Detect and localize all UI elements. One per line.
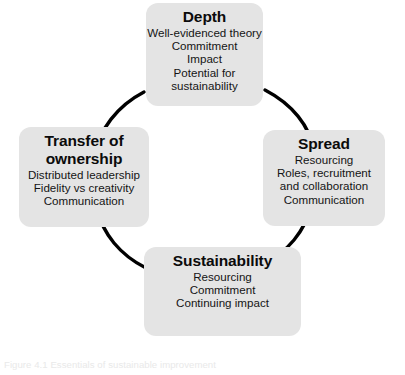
node-depth-title: Depth xyxy=(183,8,226,25)
node-transfer-line-3: Communication xyxy=(28,194,140,207)
node-spread-line-3: and collaboration xyxy=(277,179,371,192)
node-depth-line-2: Commitment xyxy=(147,39,262,52)
node-sustainability: Sustainability Resourcing Commitment Con… xyxy=(144,247,301,336)
node-sustainability-lines: Resourcing Commitment Continuing impact xyxy=(176,270,269,310)
node-depth-line-5: sustainability xyxy=(147,79,262,92)
node-sustainability-title: Sustainability xyxy=(173,252,272,269)
node-depth-line-1: Well-evidenced theory xyxy=(147,26,262,39)
cycle-diagram: Depth Well-evidenced theory Commitment I… xyxy=(0,0,405,375)
node-spread-line-2: Roles, recruitment xyxy=(277,166,371,179)
node-spread-title: Spread xyxy=(298,135,350,152)
node-depth-lines: Well-evidenced theory Commitment Impact … xyxy=(147,26,262,92)
node-sustainability-line-2: Commitment xyxy=(176,283,269,296)
node-transfer-title-line-1: Transfer of xyxy=(44,132,123,150)
node-transfer-lines: Distributed leadership Fidelity vs creat… xyxy=(28,168,140,208)
node-depth: Depth Well-evidenced theory Commitment I… xyxy=(146,3,263,106)
node-depth-line-4: Potential for xyxy=(147,66,262,79)
node-transfer-of-ownership: Transfer of ownership Distributed leader… xyxy=(19,127,149,227)
node-sustainability-line-3: Continuing impact xyxy=(176,296,269,309)
node-spread-lines: Resourcing Roles, recruitment and collab… xyxy=(277,153,371,206)
node-transfer-line-2: Fidelity vs creativity xyxy=(28,181,140,194)
node-depth-line-3: Impact xyxy=(147,52,262,65)
node-spread: Spread Resourcing Roles, recruitment and… xyxy=(263,130,385,226)
node-transfer-title-line-2: ownership xyxy=(46,150,123,168)
node-spread-line-4: Communication xyxy=(277,193,371,206)
node-spread-line-1: Resourcing xyxy=(277,153,371,166)
node-transfer-line-1: Distributed leadership xyxy=(28,168,140,181)
node-sustainability-line-1: Resourcing xyxy=(176,270,269,283)
figure-caption: Figure 4.1 Essentials of sustainable imp… xyxy=(4,359,304,370)
